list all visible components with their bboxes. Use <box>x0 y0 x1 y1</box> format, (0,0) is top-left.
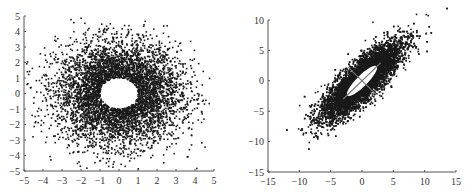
y-tick-label: 10 <box>254 15 264 26</box>
x-tick-label: 3 <box>174 175 179 186</box>
y-tick-label: −15 <box>248 167 264 178</box>
x-tick-label: −2 <box>76 175 87 186</box>
x-tick-label: 10 <box>420 176 430 187</box>
y-tick-label: 5 <box>15 11 20 22</box>
y-tick-label: 4 <box>15 26 20 37</box>
scatter-plot-ellipse: −15−10−50510151050−5−10−15 <box>248 8 461 187</box>
y-tick-label: −5 <box>253 106 264 117</box>
y-tick-label: 1 <box>15 73 20 84</box>
y-tick-label: 0 <box>259 75 264 86</box>
x-tick-label: −5 <box>325 176 336 187</box>
data-points <box>26 17 210 169</box>
x-tick-label: 1 <box>136 175 141 186</box>
y-tick-label: −1 <box>9 104 20 115</box>
x-tick-label: −1 <box>95 175 106 186</box>
y-tick-label: −2 <box>9 119 20 130</box>
x-tick-label: 2 <box>155 175 160 186</box>
y-tick-label: 0 <box>15 88 20 99</box>
x-tick-label: 0 <box>360 176 365 187</box>
y-tick-label: −4 <box>9 150 20 161</box>
x-tick-label: 15 <box>451 176 461 187</box>
x-tick-label: −3 <box>57 175 68 186</box>
x-tick-label: −4 <box>38 175 49 186</box>
x-tick-label: 0 <box>117 175 122 186</box>
y-tick-label: 2 <box>15 57 20 68</box>
x-tick-label: 5 <box>391 176 396 187</box>
scatter-plot-ring: −5−4−3−2−1012345543210−1−2−3−4−5 <box>9 11 216 187</box>
x-tick-label: 5 <box>212 175 217 186</box>
x-tick-label: 4 <box>193 175 198 186</box>
y-tick-label: 3 <box>15 42 20 53</box>
x-tick-label: −15 <box>260 176 276 187</box>
x-tick-label: −10 <box>292 176 308 187</box>
y-tick-label: 5 <box>259 45 264 56</box>
figure: −5−4−3−2−1012345543210−1−2−3−4−5 −15−10−… <box>0 0 467 196</box>
x-tick-label: −5 <box>19 175 30 186</box>
y-tick-label: −3 <box>9 135 20 146</box>
y-tick-label: −5 <box>9 166 20 177</box>
y-tick-label: −10 <box>248 136 264 147</box>
